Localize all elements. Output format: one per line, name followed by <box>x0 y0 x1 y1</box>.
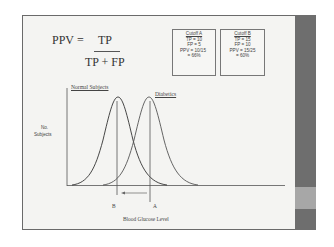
y-axis-label-line1: No. <box>41 125 48 130</box>
arrow-head-icon <box>121 192 125 195</box>
marker-a-label: A <box>153 203 157 209</box>
distribution-chart <box>0 0 334 247</box>
normal-subjects-curve <box>72 97 167 185</box>
x-axis-label: Blood Glucose Level <box>123 216 169 222</box>
legend-normal-subjects: Normal Subjects <box>71 84 108 90</box>
y-axis-label-line2: Subjects <box>34 132 52 137</box>
legend-diabetics: Diabetics <box>155 91 176 97</box>
marker-b-label: B <box>112 203 116 209</box>
